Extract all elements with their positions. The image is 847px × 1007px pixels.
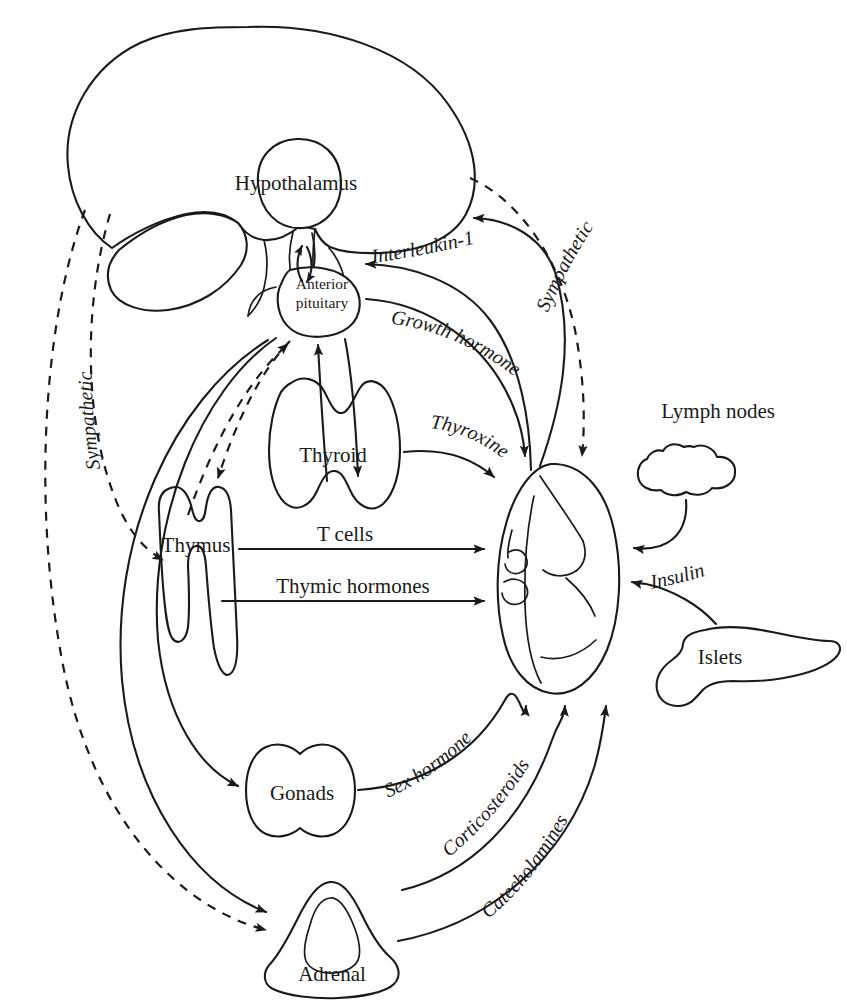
label-sympathetic-left: Sympathetic — [0, 0, 110, 472]
label-t-cells: T cells — [317, 522, 373, 546]
label-islets: Islets — [698, 645, 742, 669]
diagram-canvas: Hypothalamus Anterior pituitary Thyroid … — [0, 0, 847, 1007]
label-gonads: Gonads — [270, 781, 334, 805]
thymus-outline — [159, 487, 237, 675]
label-thymus: Thymus — [162, 533, 231, 557]
arrow-sex-hormone — [358, 694, 526, 790]
label-adrenal: Adrenal — [298, 962, 366, 986]
label-anterior-pituitary-line2: pituitary — [296, 294, 349, 311]
label-hypothalamus: Hypothalamus — [235, 171, 357, 195]
diagram-svg: Hypothalamus Anterior pituitary Thyroid … — [0, 0, 847, 1007]
arrow-lymph-nodes-to-spleen — [634, 500, 686, 549]
label-thymic-hormones: Thymic hormones — [276, 574, 429, 598]
label-anterior-pituitary-line1: Anterior — [296, 275, 349, 292]
arrow-insulin — [632, 582, 716, 624]
label-thyroid: Thyroid — [299, 443, 367, 467]
spleen-outline — [498, 464, 620, 694]
arrow-thyroxine — [404, 451, 494, 477]
arrow-pituitary-to-adrenal — [121, 340, 268, 912]
label-lymph-nodes: Lymph nodes — [661, 399, 775, 423]
lymph-nodes-outline — [638, 444, 735, 495]
islets-outline — [657, 627, 840, 706]
